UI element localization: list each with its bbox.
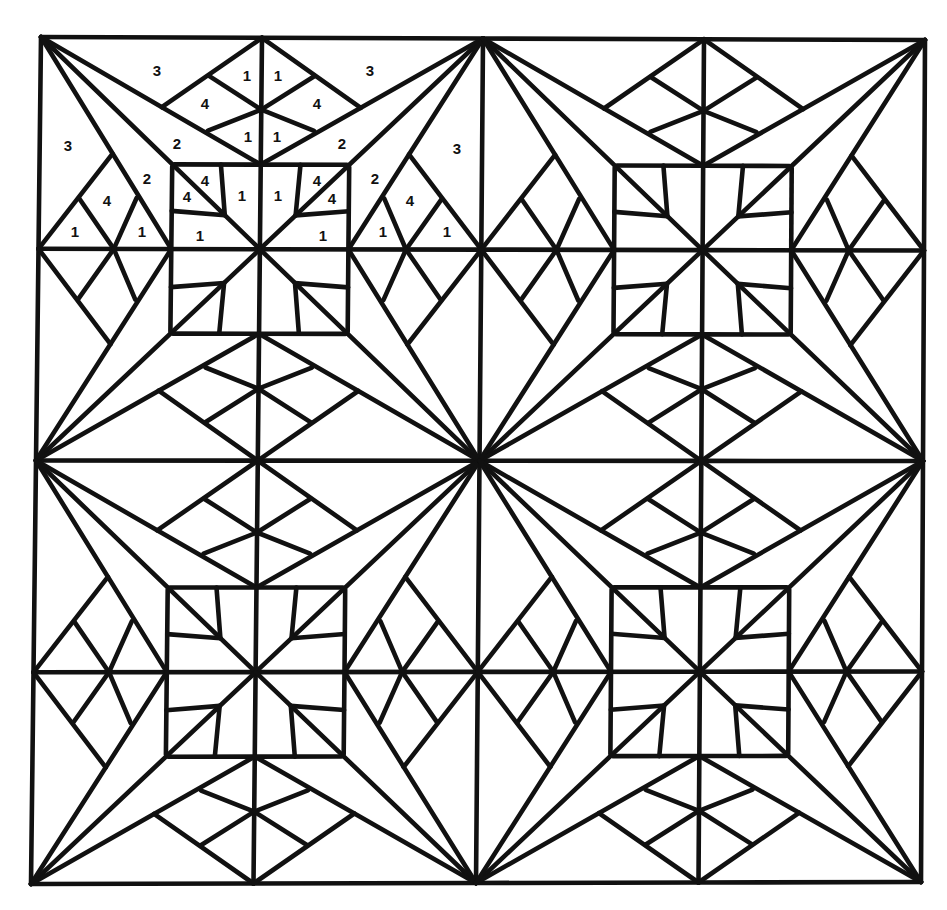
pattern-line: [170, 249, 171, 332]
color-number-label: 1: [273, 128, 281, 145]
pattern-line: [614, 168, 615, 250]
pattern-line: [922, 461, 923, 672]
pattern-line: [258, 249, 260, 460]
pattern-line: [167, 590, 168, 673]
color-number-label: 1: [319, 227, 327, 244]
pattern-line: [171, 167, 172, 250]
color-number-label: 4: [313, 95, 322, 112]
pattern-line: [31, 884, 254, 885]
color-number-label: 1: [238, 187, 246, 204]
color-number-label: 4: [406, 192, 415, 209]
pattern-line: [36, 249, 39, 461]
color-number-label: 4: [328, 190, 337, 207]
pattern-line: [610, 672, 611, 754]
color-number-label: 4: [201, 95, 210, 112]
color-number-label: 1: [244, 128, 252, 145]
color-number-label: 2: [173, 135, 181, 152]
pattern-line: [166, 672, 167, 755]
pattern-line: [699, 672, 700, 883]
pattern-line: [788, 672, 789, 754]
pattern-line: [262, 38, 483, 39]
color-number-label: 1: [443, 223, 451, 240]
color-number-label: 1: [379, 223, 387, 240]
color-number-label: 3: [366, 62, 374, 79]
pattern-line: [345, 590, 346, 672]
pattern-line: [480, 250, 482, 461]
color-number-label: 1: [196, 227, 204, 244]
color-number-label: 1: [274, 187, 282, 204]
color-number-label: 3: [453, 140, 461, 157]
pattern-line: [924, 40, 925, 251]
pattern-line: [789, 589, 790, 671]
pattern-line: [704, 39, 925, 40]
pattern-line: [483, 39, 704, 40]
pattern-line: [344, 672, 345, 754]
pattern-line: [791, 168, 792, 250]
color-number-label: 2: [371, 170, 379, 187]
pattern-line: [34, 461, 37, 673]
color-number-label: 1: [243, 67, 251, 84]
pattern-line: [476, 672, 478, 883]
pattern-line: [478, 461, 480, 672]
pattern-line: [611, 590, 612, 672]
color-number-label: 3: [64, 137, 72, 154]
pattern-line: [791, 250, 792, 332]
pattern-line: [701, 250, 702, 461]
pattern-line: [254, 883, 477, 884]
color-number-label: 1: [274, 67, 282, 84]
pattern-line: [481, 39, 483, 250]
color-number-label: 4: [103, 192, 112, 209]
pattern-line: [476, 883, 699, 884]
pattern-line: [260, 38, 262, 249]
pattern-line: [348, 249, 349, 331]
color-number-label: 1: [71, 223, 79, 240]
pattern-line: [481, 250, 702, 251]
pattern-line: [699, 882, 922, 883]
color-number-label: 2: [338, 135, 346, 152]
color-number-label: 4: [183, 188, 192, 205]
pattern-line: [700, 461, 701, 672]
pattern-line: [348, 167, 349, 249]
color-number-label: 2: [143, 170, 151, 187]
pattern-line: [31, 672, 34, 884]
color-number-label: 1: [138, 223, 146, 240]
color-number-label: 3: [153, 62, 161, 79]
color-number-label: 4: [313, 172, 322, 189]
pattern-line: [41, 37, 262, 38]
quilt-pattern-canvas: 3113441132232442441144111111: [0, 0, 947, 910]
pattern-line: [256, 461, 258, 672]
pattern-line: [254, 672, 256, 883]
pattern-line: [614, 250, 615, 332]
pattern-line: [921, 672, 922, 883]
pattern-line: [703, 39, 704, 250]
color-number-label: 4: [201, 172, 210, 189]
pattern-line: [39, 37, 42, 249]
pattern-line: [923, 251, 924, 462]
